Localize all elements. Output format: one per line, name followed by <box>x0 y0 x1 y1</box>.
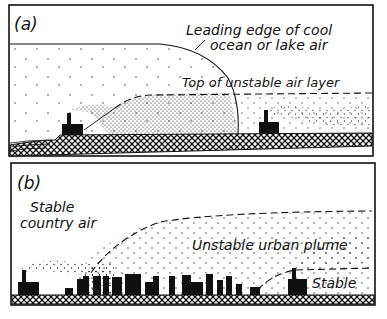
ground-b <box>12 295 374 304</box>
figure-canvas: (a) Leading edge of cool ocean or lake a… <box>0 0 387 319</box>
urban-plume-label: Unstable urban plume <box>192 237 348 253</box>
stable-label: Stable <box>312 275 356 291</box>
panel-a: (a) Leading edge of cool ocean or lake a… <box>9 5 373 156</box>
panel-b: (b) Stable country air Unstable urban pl… <box>11 163 375 305</box>
panel-b-label: (b) <box>17 173 41 193</box>
top-unstable-label: Top of unstable air layer <box>182 75 341 90</box>
stable-country-label-1: Stable <box>30 199 74 215</box>
panel-a-label: (a) <box>14 14 38 34</box>
leading-edge-label-2: ocean or lake air <box>210 37 329 53</box>
stable-country-label-2: country air <box>20 215 97 231</box>
leading-edge-label-1: Leading edge of cool <box>186 22 332 38</box>
